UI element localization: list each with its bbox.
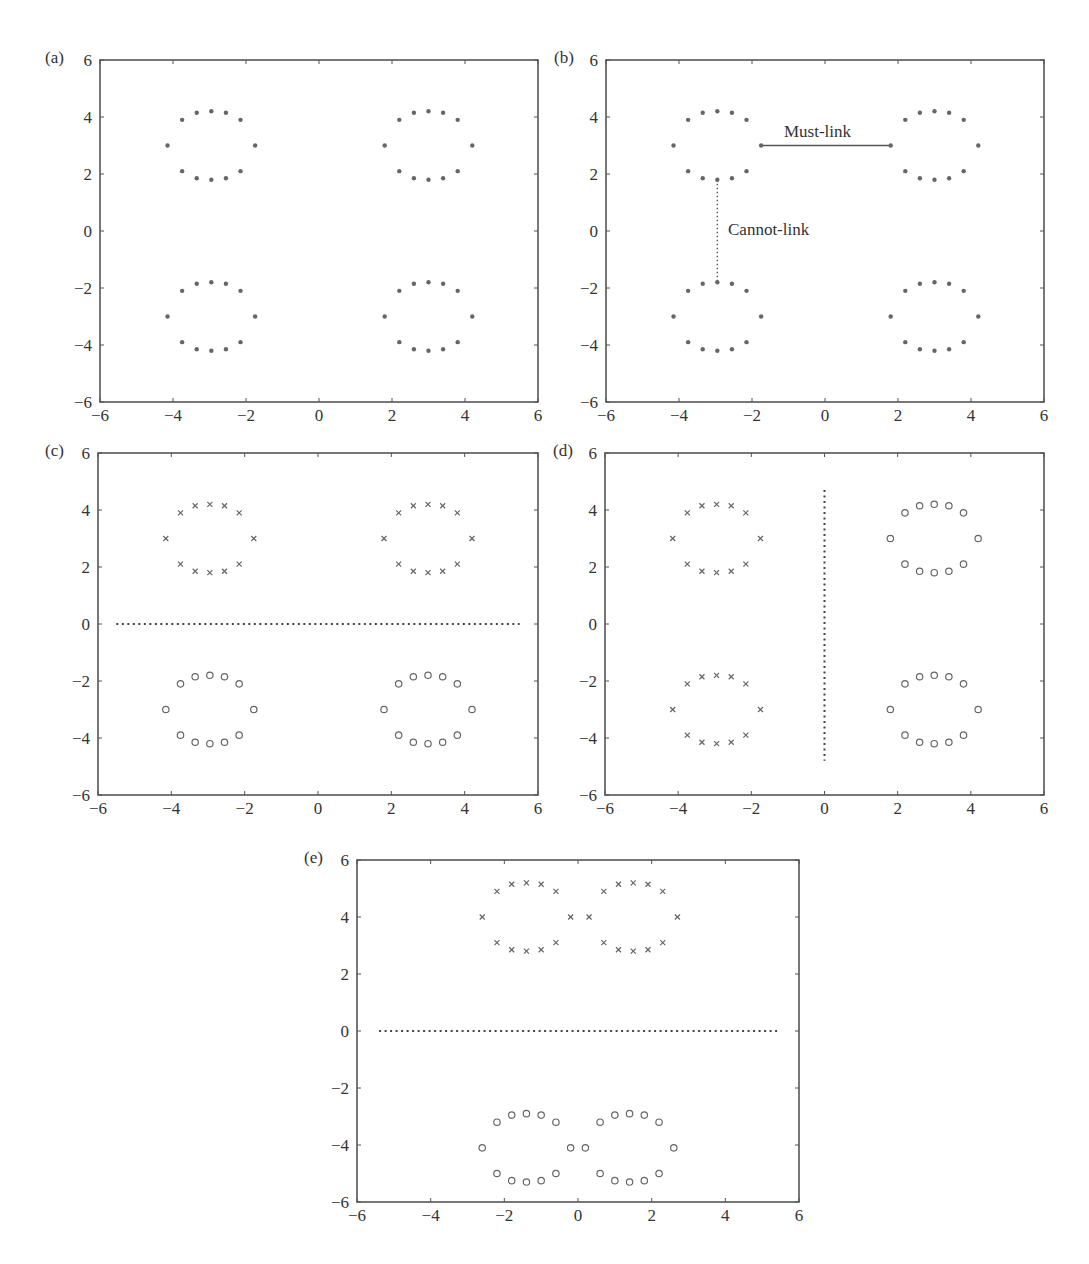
y-tick-label: 6 [589,444,598,463]
data-point-x [524,880,529,885]
data-point-x [480,915,485,920]
data-point-o [931,741,937,747]
data-point-x [660,889,665,894]
data-point [426,178,430,182]
y-tick-label: 4 [84,108,93,127]
x-tick-label: −6 [89,799,107,818]
data-point-x [411,503,416,508]
data-point [441,111,445,115]
data-point-x [222,503,227,508]
x-tick-label: 0 [574,1206,583,1225]
y-tick-label: −4 [74,336,93,355]
data-point [730,176,734,180]
data-point-o [395,732,401,738]
data-point-o [177,681,183,687]
data-point-o [975,535,981,541]
data-point [976,143,980,147]
data-point [962,169,966,173]
data-point [889,314,893,318]
y-tick-label: −6 [580,393,598,412]
data-point [932,109,936,113]
data-point-x [193,503,198,508]
data-point-o [509,1177,515,1183]
data-point-o [656,1119,662,1125]
data-point-o [236,732,242,738]
data-point-x [178,562,183,567]
y-tick-label: −2 [580,279,598,298]
data-point-o [381,706,387,712]
data-point-x [714,502,719,507]
data-point-o [931,672,937,678]
data-point-o [192,674,198,680]
data-point-o [902,510,908,516]
data-point-x [553,940,558,945]
data-point-x [411,569,416,574]
data-point-x [494,889,499,894]
data-point [412,111,416,115]
data-point [715,280,719,284]
data-point-o [494,1170,500,1176]
plot-area: −6−4−20246−6−4−20246 [100,60,538,402]
data-point [238,340,242,344]
x-tick-label: −6 [597,406,615,425]
y-tick-label: 6 [84,51,93,70]
data-point [253,314,257,318]
data-point [412,347,416,351]
x-tick-label: −6 [91,406,109,425]
data-point [947,347,951,351]
data-point [253,143,257,147]
data-point [195,282,199,286]
data-point [456,169,460,173]
data-point-o [469,706,475,712]
data-point [932,178,936,182]
data-point-x [251,536,256,541]
y-tick-label: 2 [341,965,350,984]
data-point [426,349,430,353]
data-point-o [626,1179,632,1185]
data-point-x [670,707,675,712]
data-point [701,111,705,115]
data-point-o [538,1177,544,1183]
data-point-x [539,882,544,887]
data-point-o [192,739,198,745]
data-point [224,111,228,115]
data-point [195,111,199,115]
data-point-x [743,562,748,567]
data-point-x [714,673,719,678]
x-tick-label: −6 [348,1206,366,1225]
data-point-o [916,739,922,745]
x-tick-label: 6 [795,1206,804,1225]
data-point [686,289,690,293]
y-tick-label: 6 [82,444,91,463]
data-point-x [685,681,690,686]
data-point-x [163,536,168,541]
data-point-o [902,681,908,687]
x-tick-label: 2 [387,799,396,818]
data-point [195,347,199,351]
data-point-x [207,502,212,507]
y-tick-label: 0 [589,615,598,634]
panel-c: −6−4−20246−6−4−20246 (c) [98,453,538,795]
data-point-x [601,940,606,945]
panel-label-e: (e) [304,848,323,868]
y-tick-label: −6 [74,393,92,412]
y-tick-label: 6 [590,51,599,70]
data-point-x [699,503,704,508]
data-point [701,282,705,286]
data-point [889,143,893,147]
data-point-x [616,882,621,887]
panel-e: −6−4−20246−6−4−20246 (e) [357,860,799,1202]
data-point-x [631,949,636,954]
y-tick-label: 4 [589,501,598,520]
data-point [383,314,387,318]
y-tick-label: 0 [84,222,93,241]
x-tick-label: 2 [388,406,397,425]
x-tick-label: 4 [967,406,976,425]
data-point [441,282,445,286]
data-point-o [523,1179,529,1185]
data-point [209,280,213,284]
data-point [441,176,445,180]
data-point-x [509,947,514,952]
data-point [397,340,401,344]
x-tick-label: −2 [237,406,255,425]
